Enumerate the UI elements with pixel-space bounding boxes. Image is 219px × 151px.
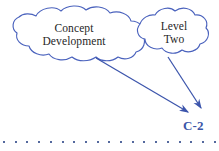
rule-dot	[190, 141, 192, 143]
rule-dot	[26, 141, 28, 143]
rule-dot	[97, 141, 99, 143]
cloud-label-level-two: Level Two	[146, 20, 202, 46]
rule-dot	[108, 141, 110, 143]
rule-dot	[155, 141, 157, 143]
slide-canvas: Concept Development Level Two C-2	[0, 0, 219, 151]
cloud-label-concept-development: Concept Development	[22, 22, 126, 48]
rule-dot	[214, 141, 216, 143]
rule-dot	[15, 141, 17, 143]
rule-dot	[143, 141, 145, 143]
rule-dot	[179, 141, 181, 143]
rule-dot	[38, 141, 40, 143]
rule-dot	[167, 141, 169, 143]
dotted-rule	[0, 140, 219, 145]
rule-dot	[132, 141, 134, 143]
rule-dot	[85, 141, 87, 143]
rule-dot	[3, 141, 5, 143]
page-number-label: C-2	[183, 118, 204, 134]
rule-dot	[50, 141, 52, 143]
rule-dot	[62, 141, 64, 143]
rule-dot	[202, 141, 204, 143]
arrow-level-two-to-target	[168, 57, 201, 108]
rule-dot	[120, 141, 122, 143]
rule-dot	[73, 141, 75, 143]
